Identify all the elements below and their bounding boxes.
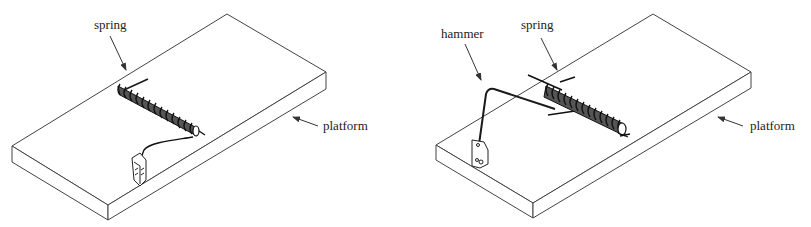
right-platform-arrow (718, 117, 743, 126)
right-platform-label: platform (750, 119, 795, 132)
diagram-drawing (0, 0, 811, 227)
left-spring-label: spring (94, 18, 127, 31)
right-hammer-label: hammer (441, 27, 484, 40)
left-platform-label: platform (323, 119, 368, 132)
right-hammer-arrow (465, 44, 481, 80)
left-platform-arrow (293, 117, 318, 126)
mousetrap-diagram: spring platform hammer spring platform (0, 0, 811, 227)
right-spring-arrow (541, 38, 557, 70)
right-spring-label: spring (521, 18, 554, 31)
left-spring-arrow (110, 36, 126, 70)
right-bracket (472, 140, 488, 168)
